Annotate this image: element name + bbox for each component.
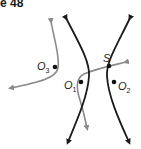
gray-curve-o3 (11, 21, 58, 88)
label-o2: O2 (118, 81, 130, 94)
hyperbola-diagram (0, 0, 141, 149)
label-o1: O1 (64, 80, 76, 93)
label-s: S (103, 53, 110, 64)
label-o3: O3 (37, 61, 49, 74)
point-o2 (112, 80, 117, 85)
point-o1 (79, 80, 84, 85)
point-o3 (53, 65, 58, 70)
point-s (107, 64, 112, 69)
